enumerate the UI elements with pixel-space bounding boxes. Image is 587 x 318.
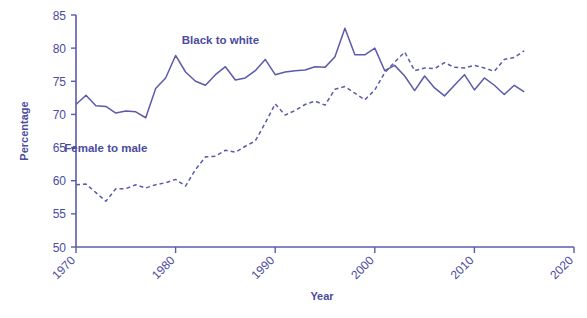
x-axis-title: Year [310, 290, 334, 302]
x-tick-label-2010: 2010 [448, 253, 477, 282]
x-tick-label-2000: 2000 [348, 253, 377, 282]
y-tick-label-75: 75 [53, 75, 67, 89]
x-tick-label-2020: 2020 [547, 253, 576, 282]
x-tick-label-1980: 1980 [149, 253, 178, 282]
y-tick-label-85: 85 [53, 9, 67, 23]
x-tick-label-1990: 1990 [249, 253, 278, 282]
series-label-female-to-male: Female to male [64, 142, 147, 154]
chart-figure: 5055606570758085 19701980199020002010202… [0, 0, 587, 318]
y-tick-labels: 5055606570758085 [53, 9, 67, 255]
data-series-group [76, 28, 524, 201]
series-line-black-to-white [76, 28, 524, 117]
y-tick-label-70: 70 [53, 108, 67, 122]
y-axis: 5055606570758085 [53, 9, 76, 255]
y-tick-label-80: 80 [53, 42, 67, 56]
line-chart-canvas: 5055606570758085 19701980199020002010202… [0, 0, 587, 318]
y-tick-label-55: 55 [53, 207, 67, 221]
y-tick-label-50: 50 [53, 241, 67, 255]
x-tick-label-1970: 1970 [49, 253, 78, 282]
x-tick-marks [76, 247, 574, 253]
x-tick-labels: 197019801990200020102020 [49, 253, 576, 282]
series-label-black-to-white: Black to white [182, 34, 259, 46]
y-tick-label-60: 60 [53, 174, 67, 188]
y-axis-title: Percentage [18, 101, 30, 160]
x-axis: 197019801990200020102020 [49, 247, 576, 282]
series-line-female-to-male [76, 51, 524, 201]
